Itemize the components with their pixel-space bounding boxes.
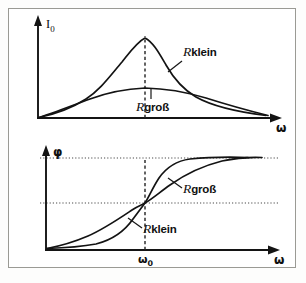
upper-x-axis-label: ω — [276, 122, 286, 134]
lower-y-axis-label: φ — [53, 146, 62, 158]
lower-leader-r-gross — [168, 178, 182, 188]
figure-root: I0 ω Rklein Rgroß φ ω ω0 Rgroß Rklein — [0, 0, 306, 283]
lower-curve-label-r-klein-symbol: R — [143, 221, 151, 236]
lower-curve-label-r-gross-symbol: R — [183, 181, 191, 196]
lower-curve-label-r-klein-word: klein — [151, 223, 176, 235]
upper-curve-label-r-gross-word: groß — [144, 101, 169, 113]
lower-resonance-tick-label-main: ω — [138, 253, 148, 266]
upper-curve-label-r-klein-symbol: R — [183, 44, 191, 59]
lower-chart-group — [40, 145, 280, 255]
lower-curve-label-r-klein: Rklein — [143, 222, 176, 236]
upper-y-axis-arrowhead — [34, 15, 42, 26]
lower-resonance-tick-label-subscript: 0 — [148, 259, 154, 268]
lower-y-axis-arrowhead — [42, 145, 50, 156]
lower-resonance-tick-label: ω0 — [138, 254, 153, 268]
upper-curve-label-r-klein-word: klein — [191, 46, 216, 58]
lower-curve-label-r-gross-word: groß — [191, 183, 216, 195]
upper-curve-label-r-klein: Rklein — [183, 45, 216, 59]
upper-curve-label-r-gross-symbol: R — [136, 99, 144, 114]
upper-y-axis-label-subscript: 0 — [50, 24, 55, 34]
lower-x-axis-label: ω — [274, 254, 284, 266]
upper-y-axis-label: I0 — [46, 18, 55, 34]
lower-curve-label-r-gross: Rgroß — [183, 182, 216, 196]
upper-leader-r-klein — [168, 61, 182, 72]
figure-canvas — [0, 0, 306, 283]
upper-curve-label-r-gross: Rgroß — [136, 100, 169, 114]
